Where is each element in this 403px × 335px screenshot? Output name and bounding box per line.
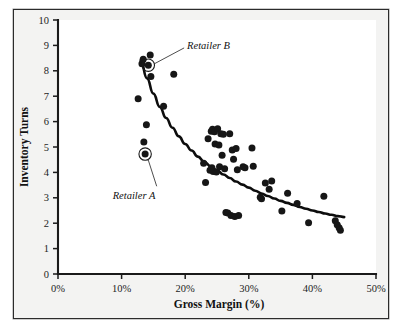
y-axis-tick-label: 4 <box>44 167 50 178</box>
data-point <box>305 219 312 226</box>
annotation-label: Retailer B <box>186 40 230 51</box>
data-point <box>143 121 150 128</box>
y-axis-tick-label: 3 <box>44 192 49 203</box>
data-point <box>147 73 154 80</box>
data-point <box>233 145 240 152</box>
annotation-label: Retailer A <box>112 190 156 201</box>
data-point <box>226 130 233 137</box>
data-point <box>202 179 209 186</box>
y-axis-tick-label: 9 <box>44 40 49 51</box>
data-point <box>235 212 242 219</box>
figure-root: Retailer BRetailer A 0123456789100%10%20… <box>0 0 403 335</box>
y-axis-tick-label: 2 <box>44 218 49 229</box>
x-axis-tick-label: 0% <box>51 283 65 294</box>
chart-panel: Retailer BRetailer A 0123456789100%10%20… <box>13 9 389 319</box>
data-point <box>262 180 269 187</box>
data-point <box>220 131 227 138</box>
data-point <box>284 190 291 197</box>
data-point <box>200 160 207 167</box>
x-axis-tick-label: 40% <box>303 283 323 294</box>
scatter-chart: Retailer BRetailer A 0123456789100%10%20… <box>14 10 387 317</box>
data-point <box>135 95 142 102</box>
data-point <box>147 52 154 59</box>
y-axis-tick-label: 0 <box>44 269 49 280</box>
data-point <box>241 164 248 171</box>
data-point <box>215 141 222 148</box>
y-axis-tick-label: 10 <box>39 15 50 26</box>
data-point <box>258 195 265 202</box>
data-point <box>268 178 275 185</box>
data-point <box>219 152 226 159</box>
data-point <box>266 186 273 193</box>
data-point <box>221 165 228 172</box>
data-point <box>205 135 212 142</box>
data-point <box>320 193 327 200</box>
x-axis-tick-label: 20% <box>176 283 196 294</box>
x-axis-tick-label: 30% <box>239 283 258 294</box>
y-axis-tick-label: 7 <box>44 91 49 102</box>
y-axis-tick-label: 5 <box>44 142 49 153</box>
x-axis-tick-label: 10% <box>112 283 132 294</box>
data-point <box>145 62 152 69</box>
data-point <box>337 227 344 234</box>
data-point <box>160 103 167 110</box>
data-point <box>250 163 257 170</box>
y-axis-tick-label: 8 <box>44 65 49 76</box>
x-axis-title: Gross Margin (%) <box>174 298 265 311</box>
data-point <box>278 208 285 215</box>
y-axis-title: Inventory Turns <box>18 106 31 187</box>
data-point <box>140 138 147 145</box>
data-point <box>230 156 237 163</box>
y-axis-tick-label: 6 <box>44 116 49 127</box>
data-point <box>170 71 177 78</box>
x-axis-tick-label: 50% <box>366 283 386 294</box>
y-axis-tick-label: 1 <box>44 243 49 254</box>
data-point <box>294 200 301 207</box>
data-point <box>142 151 149 158</box>
data-point <box>248 145 255 152</box>
